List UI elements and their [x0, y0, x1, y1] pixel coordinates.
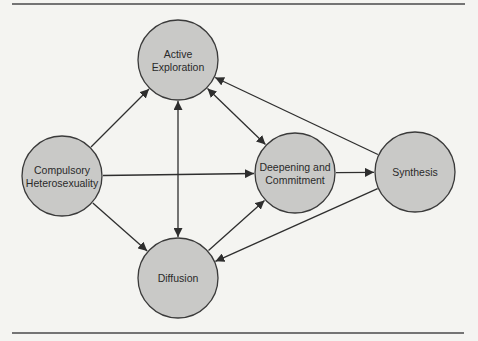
node-label: Commitment — [265, 174, 325, 186]
identity-model-diagram: ActiveExplorationCompulsoryHeterosexuali… — [0, 0, 478, 341]
edge-compulsory-to-diffusion-arrow-icon — [93, 203, 147, 251]
node-synthesis: Synthesis — [375, 132, 455, 212]
node-label: Heterosexuality — [26, 177, 99, 189]
node-label: Deepening and — [259, 161, 330, 173]
node-label: Synthesis — [392, 166, 438, 178]
node-compulsory: CompulsoryHeterosexuality — [22, 136, 102, 216]
node-diffusion: Diffusion — [138, 238, 218, 318]
node-deepening: Deepening andCommitment — [255, 133, 335, 213]
node-label: Exploration — [152, 61, 205, 73]
node-label: Compulsory — [34, 164, 91, 176]
node-label: Diffusion — [158, 272, 199, 284]
nodes: ActiveExplorationCompulsoryHeterosexuali… — [22, 20, 455, 318]
edge-compulsory-to-active-arrow-icon — [91, 89, 149, 147]
node-active: ActiveExploration — [138, 20, 218, 100]
node-label: Active — [164, 48, 193, 60]
